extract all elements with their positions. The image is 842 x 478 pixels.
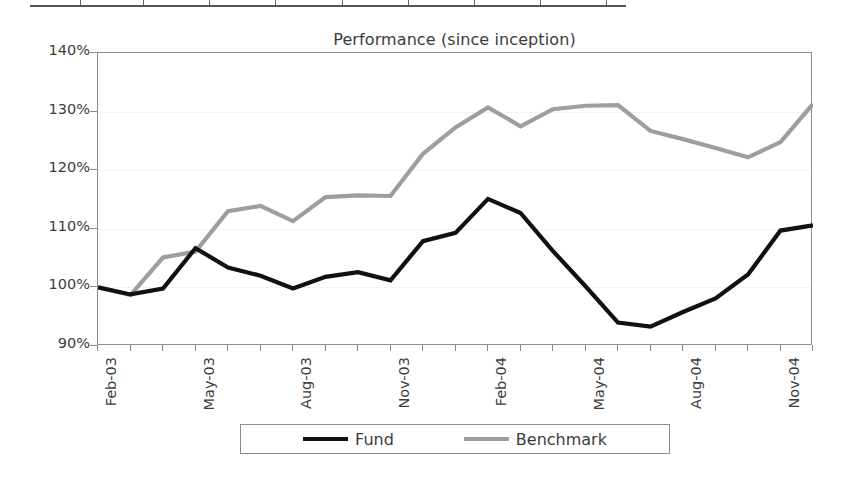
x-axis-label: Nov-04 — [786, 357, 802, 409]
y-axis-label: 140% — [10, 42, 90, 58]
y-axis-label: 120% — [10, 159, 90, 175]
x-axis-tick — [682, 345, 683, 351]
performance-chart: Performance (since inception) FundBenchm… — [0, 0, 842, 478]
legend-label: Fund — [355, 430, 394, 449]
legend-item-fund[interactable]: Fund — [303, 430, 394, 449]
y-axis-label: 130% — [10, 101, 90, 117]
x-axis-tick — [455, 345, 456, 351]
x-axis-label: Feb-04 — [493, 357, 509, 406]
x-axis-tick — [97, 345, 98, 351]
y-axis-label: 90% — [10, 335, 90, 351]
y-axis-tick — [90, 345, 97, 346]
legend-item-benchmark[interactable]: Benchmark — [464, 430, 607, 449]
y-axis-tick — [90, 111, 97, 112]
y-axis-tick — [90, 169, 97, 170]
chart-title: Performance (since inception) — [97, 30, 812, 49]
y-axis-label: 110% — [10, 218, 90, 234]
x-axis-tick — [747, 345, 748, 351]
x-axis-tick — [292, 345, 293, 351]
x-axis-tick — [812, 345, 813, 351]
x-axis-tick — [162, 345, 163, 351]
plot-area — [97, 52, 812, 345]
series-line-benchmark — [98, 104, 813, 295]
legend-label: Benchmark — [516, 430, 607, 449]
y-axis-label: 100% — [10, 276, 90, 292]
x-axis-tick — [585, 345, 586, 351]
x-axis-tick — [552, 345, 553, 351]
legend-swatch-benchmark — [464, 437, 509, 441]
x-axis-label: Feb-03 — [103, 357, 119, 406]
x-axis-tick — [390, 345, 391, 351]
x-axis-label: May-04 — [591, 357, 607, 410]
x-axis-tick — [227, 345, 228, 351]
legend-swatch-fund — [303, 437, 348, 441]
chart-legend: FundBenchmark — [240, 424, 670, 454]
y-axis-tick — [90, 52, 97, 53]
x-axis-tick — [195, 345, 196, 351]
series-lines — [98, 53, 813, 346]
series-line-fund — [98, 199, 813, 327]
x-axis-tick — [325, 345, 326, 351]
y-axis-tick — [90, 228, 97, 229]
x-axis-label: Aug-04 — [688, 357, 704, 409]
x-axis-tick — [650, 345, 651, 351]
y-axis-tick — [90, 286, 97, 287]
x-axis-label: May-03 — [201, 357, 217, 410]
x-axis-tick — [130, 345, 131, 351]
x-axis-tick — [780, 345, 781, 351]
x-axis-tick — [260, 345, 261, 351]
x-axis-tick — [715, 345, 716, 351]
x-axis-tick — [617, 345, 618, 351]
x-axis-tick — [520, 345, 521, 351]
x-axis-label: Aug-03 — [298, 357, 314, 409]
x-axis-tick — [487, 345, 488, 351]
x-axis-tick — [422, 345, 423, 351]
x-axis-label: Nov-03 — [396, 357, 412, 409]
x-axis-tick — [357, 345, 358, 351]
